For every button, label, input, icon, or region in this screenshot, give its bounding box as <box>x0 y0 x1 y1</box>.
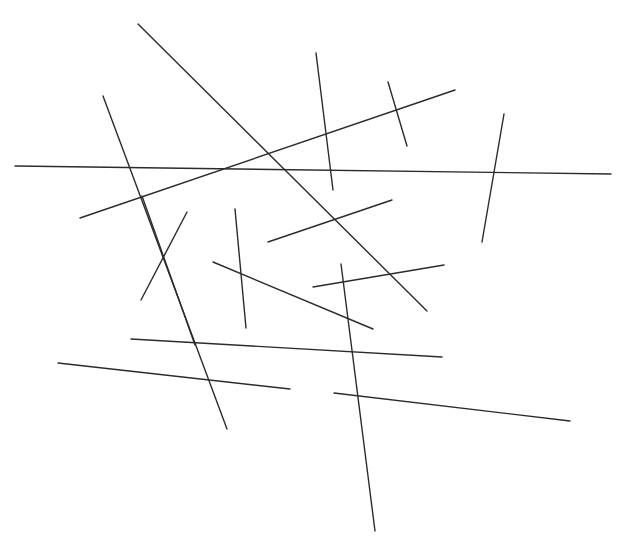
plot-background <box>0 0 628 555</box>
figure-canvas <box>0 0 628 555</box>
line-segment-plot <box>0 0 628 555</box>
